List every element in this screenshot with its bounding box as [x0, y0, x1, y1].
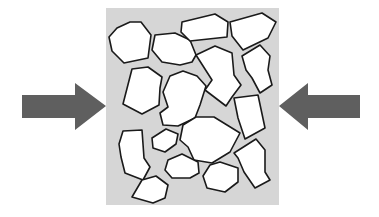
particles-group [109, 13, 276, 203]
right-arrow-icon [279, 83, 360, 130]
diagram-canvas [0, 0, 379, 217]
left-arrow-icon [22, 83, 106, 130]
compression-diagram [0, 0, 379, 217]
